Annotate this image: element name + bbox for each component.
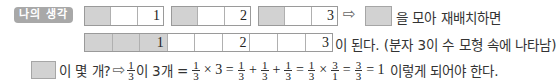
my-thoughts-badge: 나의 생각 bbox=[14, 7, 73, 23]
operator: × bbox=[319, 62, 327, 78]
bar-cell: 1 bbox=[138, 7, 163, 25]
conclusion-text: 이렇게 되어야 한다. bbox=[390, 60, 499, 80]
bar-cell bbox=[111, 7, 137, 25]
cell-number: 1 bbox=[157, 34, 164, 51]
cell-number: 2 bbox=[240, 7, 247, 25]
fraction: 13 bbox=[308, 60, 316, 81]
fraction-bar-3: 3 bbox=[258, 6, 338, 26]
cell-number: 1 bbox=[153, 7, 160, 25]
bar-cell bbox=[278, 34, 306, 51]
fraction-bar-2: 2 bbox=[171, 6, 251, 26]
fraction-bar-1: 1 bbox=[84, 6, 164, 26]
combined-fraction-bar: 1 2 3 bbox=[84, 33, 333, 52]
cell-number: 3 bbox=[322, 34, 329, 51]
bar-cell: 3 bbox=[306, 34, 333, 51]
cell-number: 2 bbox=[239, 34, 246, 51]
bar-cell-shaded bbox=[113, 34, 141, 51]
bar-cell-shaded: 1 bbox=[140, 34, 168, 51]
bar-cell bbox=[285, 7, 311, 25]
operator: × 3 = bbox=[204, 62, 234, 78]
fraction: 13 bbox=[261, 60, 269, 81]
fraction: 31 bbox=[331, 60, 339, 81]
bar-cell-shaded bbox=[85, 34, 113, 51]
fraction: 13 bbox=[238, 60, 246, 81]
operator: + bbox=[249, 62, 257, 78]
shaded-piece-box bbox=[365, 6, 392, 26]
row1-text: 을 모아 재배치하면 bbox=[396, 7, 501, 27]
operator: = bbox=[343, 62, 351, 78]
text: 이 3개 = bbox=[136, 60, 188, 80]
operator: + bbox=[273, 62, 281, 78]
bar-cell bbox=[250, 34, 278, 51]
bar-cell-shaded bbox=[259, 7, 285, 25]
bar-cell: 2 bbox=[223, 34, 251, 51]
bar-cell: 3 bbox=[312, 7, 337, 25]
question-text: 이 몇 개? bbox=[59, 60, 111, 80]
bar-cell bbox=[198, 7, 224, 25]
right-arrow-icon: ⇨ bbox=[113, 61, 126, 79]
operator: = bbox=[296, 62, 304, 78]
fraction: 13 bbox=[192, 60, 200, 81]
operator: = 1 bbox=[366, 62, 384, 78]
shaded-piece-box bbox=[31, 61, 56, 79]
fraction: 13 bbox=[284, 60, 292, 81]
bar-cell-shaded bbox=[172, 7, 198, 25]
right-arrow-icon: ⇨ bbox=[343, 5, 356, 23]
fraction: 13 bbox=[127, 60, 135, 81]
bar-cell bbox=[168, 34, 196, 51]
bar-cell: 2 bbox=[225, 7, 250, 25]
bar-cell-shaded bbox=[85, 7, 111, 25]
fraction: 33 bbox=[355, 60, 363, 81]
equation-line: 이 몇 개? ⇨ 13 이 3개 = 13 × 3 = 13 + 13 + 13… bbox=[59, 58, 498, 82]
row2-text: 이 된다. (분자 3이 수 모형 속에 나타남) bbox=[335, 34, 556, 54]
cell-number: 3 bbox=[327, 7, 334, 25]
bar-cell bbox=[195, 34, 223, 51]
